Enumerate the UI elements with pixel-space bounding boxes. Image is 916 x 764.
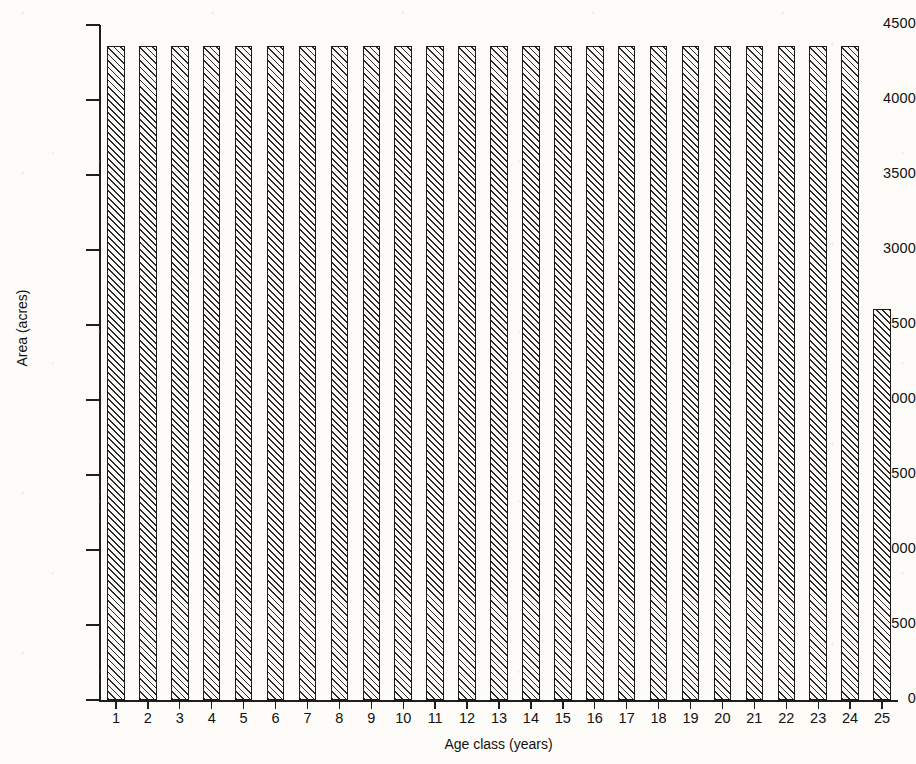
- bar: [873, 309, 891, 701]
- bar: [618, 46, 636, 700]
- chart-page: 050010001500200025003000350040004500 123…: [0, 0, 916, 764]
- bar: [586, 46, 604, 700]
- bar-series: [0, 0, 916, 764]
- y-axis-title: Area (acres): [14, 268, 30, 388]
- bar: [650, 46, 668, 700]
- bar: [778, 46, 796, 700]
- bar: [682, 46, 700, 700]
- bar: [394, 46, 412, 700]
- bar: [841, 46, 859, 700]
- bar: [299, 46, 317, 700]
- bar: [522, 46, 540, 700]
- bar: [363, 46, 381, 700]
- bar: [490, 46, 508, 700]
- bar: [809, 46, 827, 700]
- bar: [746, 46, 764, 700]
- bar: [714, 46, 732, 700]
- x-axis-title: Age class (years): [99, 736, 898, 752]
- bar: [458, 46, 476, 700]
- bar: [426, 46, 444, 700]
- bar: [235, 46, 253, 700]
- bar: [554, 46, 572, 700]
- bar: [171, 46, 189, 700]
- bar: [203, 46, 221, 700]
- bar: [331, 46, 349, 700]
- bar: [267, 46, 285, 700]
- bar: [107, 46, 125, 700]
- bar: [139, 46, 157, 700]
